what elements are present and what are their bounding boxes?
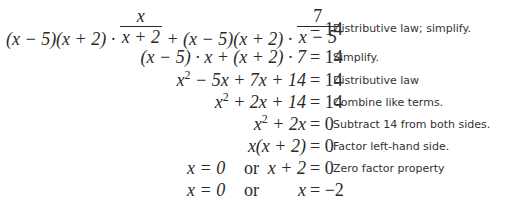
solution-a: x = 0 — [187, 158, 225, 178]
equation-rhs: = −2 — [310, 180, 344, 199]
equation-row-4: x2 + 2x + 14 — [215, 93, 306, 111]
step-note-5: Subtract 14 from both sides. — [333, 118, 490, 131]
numerator: x — [120, 6, 162, 26]
variable-x: x — [254, 114, 262, 134]
solution-a: x = 0 — [187, 180, 225, 199]
or-word-7: or — [244, 159, 259, 177]
equation-row-3: x2 − 5x + 7x + 14 — [177, 71, 306, 89]
equation-rhs: = 0 — [310, 136, 334, 156]
equation-row-8b: x — [298, 181, 306, 199]
equation-rhs-8: = −2 — [310, 181, 344, 199]
equation-row-6: x(x + 2) — [248, 137, 306, 155]
equation-lhs: − 5x + 7x + 14 — [191, 70, 306, 90]
variable-x: x — [215, 92, 223, 112]
equation-lhs: (x − 5) · x + (x + 2) · 7 — [141, 47, 306, 67]
equation-rhs: = 0 — [310, 158, 334, 178]
or-word-8: or — [244, 181, 259, 199]
equation-lhs: x — [298, 180, 306, 199]
fraction-x-over-x-plus-2: xx + 2 — [120, 6, 162, 47]
equation-rhs-7: = 0 — [310, 159, 334, 177]
variable-x: x — [177, 70, 185, 90]
equation-lhs: + 2x — [268, 114, 306, 134]
equation-lhs: (x − 5)(x + 2) · xx + 2 + (x − 5)(x + 2)… — [6, 8, 306, 49]
equation-row-5: x2 + 2x — [254, 115, 306, 133]
step-note-6: Factor left-hand side. — [333, 140, 449, 153]
term: + (x − 5)(x + 2) · — [162, 29, 297, 49]
step-note-3: Distributive law — [333, 74, 419, 87]
equation-row-8: x = 0 — [187, 181, 225, 199]
equation-row-7: x = 0 — [187, 159, 225, 177]
step-note-1: Distributive law; simplify. — [333, 22, 471, 35]
step-note-4: Combine like terms. — [333, 96, 443, 109]
equation-lhs: + 2x + 14 — [229, 92, 306, 112]
or-connector: or — [244, 158, 259, 178]
step-note-2: Simplify. — [333, 51, 379, 64]
step-note-7: Zero factor property — [333, 162, 445, 175]
term: (x − 5)(x + 2) · — [6, 29, 120, 49]
equation-lhs: x + 2 — [268, 158, 306, 178]
equation-rhs-5: = 0 — [310, 115, 334, 133]
equation-row-7b: x + 2 — [268, 159, 306, 177]
or-connector: or — [244, 180, 259, 199]
equation-lhs: x(x + 2) — [248, 136, 306, 156]
equation-row-2: (x − 5) · x + (x + 2) · 7 — [141, 48, 306, 66]
equation-rhs-6: = 0 — [310, 137, 334, 155]
equation-rhs: = 0 — [310, 114, 334, 134]
denominator: x + 2 — [120, 26, 162, 47]
